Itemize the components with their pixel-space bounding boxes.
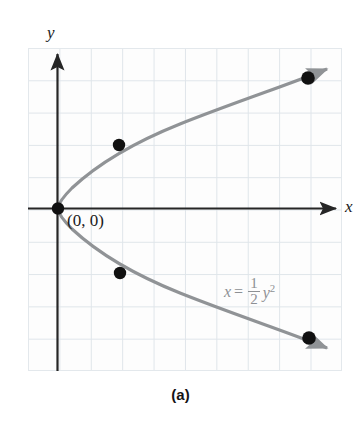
data-point-origin xyxy=(52,202,64,214)
data-point-lower-outer xyxy=(302,331,316,345)
y-axis-label: y xyxy=(47,24,55,41)
equation-annotation: x = 1 2 y2 xyxy=(224,276,275,308)
figure-caption: (a) xyxy=(0,386,361,403)
graph-overlay xyxy=(0,0,361,421)
x-axis-label: x xyxy=(345,198,353,215)
origin-point-label: (0, 0) xyxy=(67,212,104,229)
equation-equals-sign: = xyxy=(234,284,243,300)
equation-fraction: 1 2 xyxy=(248,276,260,308)
data-point-lower-inner xyxy=(114,267,126,279)
fraction-numerator: 1 xyxy=(248,276,260,291)
parabola-figure: y x (0, 0) x = 1 2 y2 (a) xyxy=(0,0,361,421)
fraction-denominator: 2 xyxy=(248,291,260,307)
data-point-upper-outer xyxy=(301,71,315,85)
data-point-upper-inner xyxy=(113,139,125,151)
equation-variable: y xyxy=(263,284,270,301)
equation-rhs: y2 xyxy=(263,283,276,301)
equation-lhs: x xyxy=(224,284,231,300)
equation-exponent: 2 xyxy=(270,282,275,294)
